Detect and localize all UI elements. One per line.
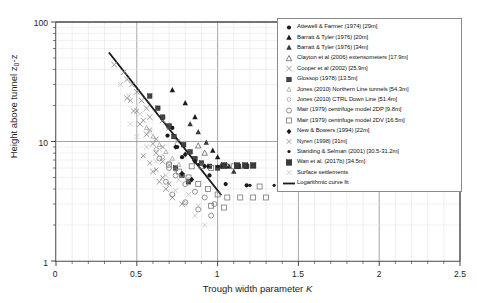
legend-swatch [281, 168, 297, 177]
data-point [154, 137, 159, 142]
legend-item[interactable]: Glossop (1978) [13.5m] [281, 74, 459, 84]
legend-item[interactable]: New & Bowers (1994) [22m] [281, 126, 459, 136]
data-point [242, 163, 248, 169]
data-point [167, 162, 172, 167]
data-point [131, 108, 137, 114]
data-point [250, 163, 256, 169]
legend-item-fit[interactable]: Logarithmic curve fit [281, 178, 459, 188]
data-point [160, 145, 165, 150]
legend-label: Mair (1979) centrifuge model 2DV [16.5m] [297, 118, 405, 124]
data-point [210, 148, 215, 153]
data-point [204, 140, 209, 145]
data-point [163, 186, 169, 192]
data-point [192, 114, 197, 119]
legend-swatch [281, 147, 297, 156]
data-point [147, 114, 153, 120]
data-point [144, 131, 150, 137]
x-axis-title: Trough width parameter K [55, 283, 460, 294]
data-point [202, 150, 207, 155]
data-point [154, 147, 158, 151]
legend-item[interactable]: Jones (2010) CTRL Down Line [51.4m] [281, 95, 459, 105]
x-tick-label: 2.5 [440, 269, 478, 279]
data-point [163, 179, 168, 184]
data-point [196, 182, 201, 187]
legend-marker-open-triangle [283, 54, 295, 63]
legend-item[interactable]: Jones (2010) Northern Line tunnels [54.3… [281, 84, 459, 94]
data-point [188, 150, 193, 155]
data-point [147, 94, 152, 99]
legend-item[interactable]: Mair (1979) centrifuge model 2DP [9.8m] [281, 105, 459, 115]
data-point [111, 62, 117, 68]
data-point [286, 159, 292, 165]
legend-item[interactable]: Nyren (1998) [31m] [281, 136, 459, 146]
legend-marker-open-circle [283, 106, 295, 115]
data-point [192, 189, 197, 194]
data-point [186, 192, 191, 197]
series-14 [118, 82, 207, 228]
legend-marker-filled-dot [283, 147, 295, 156]
legend-marker-filled-square [283, 75, 295, 84]
data-point [251, 195, 256, 200]
data-point [286, 35, 291, 40]
data-point [197, 163, 200, 166]
data-point [202, 222, 207, 227]
data-point [137, 111, 142, 116]
legend-item[interactable]: Barratt & Tyler (1976) [34m] [281, 43, 459, 53]
data-point [225, 195, 230, 200]
data-point [196, 129, 201, 134]
series-13 [221, 163, 256, 169]
data-point [144, 105, 150, 111]
data-point [216, 165, 219, 168]
legend-marker-filled-diamond [283, 127, 295, 136]
data-point [287, 77, 292, 82]
legend-item[interactable]: Cooper et al (2002) [25.9m] [281, 64, 459, 74]
legend-swatch [281, 33, 297, 42]
data-point [165, 134, 169, 138]
legend-item[interactable]: Wan et al. (2017b) [34.5m] [281, 157, 459, 167]
data-point [231, 169, 236, 174]
legend-item[interactable]: Barratt & Tyler (1976) [20m] [281, 32, 459, 42]
data-point [273, 184, 276, 187]
data-point [157, 142, 161, 146]
data-point [209, 213, 214, 218]
data-point [163, 173, 168, 178]
data-point [202, 195, 207, 200]
legend-label: Nyren (1998) [31m] [297, 139, 347, 145]
legend-item[interactable]: Mair (1979) centrifuge model 2DV [16.5m] [281, 116, 459, 126]
data-point [287, 108, 292, 113]
legend-label: Glossop (1978) [13.5m] [297, 76, 357, 82]
legend-item[interactable]: Clayton et al (2006) extensometers [17.9… [281, 53, 459, 63]
data-point [180, 155, 184, 159]
legend-item[interactable]: Surface settlements [281, 167, 459, 177]
data-point [287, 150, 290, 153]
data-point [286, 55, 291, 60]
data-point [196, 143, 201, 148]
legend-label: Barratt & Tyler (1976) [20m] [297, 35, 368, 41]
data-point [118, 82, 123, 87]
legend-label: Cooper et al (2002) [25.9m] [297, 66, 368, 72]
data-point [212, 201, 217, 206]
legend-swatch [281, 179, 297, 188]
legend-label: Attewell & Farmer (1974) [29m] [297, 24, 377, 30]
legend-swatch [281, 95, 297, 104]
legend-label: Jones (2010) CTRL Down Line [51.4m] [297, 97, 397, 103]
data-point [174, 139, 180, 145]
data-point [234, 163, 240, 169]
legend-label: Barratt & Tyler (1976) [34m] [297, 45, 368, 51]
legend-marker-filled-triangle [283, 43, 295, 52]
data-point [154, 159, 159, 164]
data-point [286, 45, 291, 50]
data-point [124, 77, 130, 83]
data-point [128, 121, 133, 126]
legend-item[interactable]: Attewell & Farmer (1974) [29m] [281, 22, 459, 32]
legend-swatch [281, 158, 297, 167]
data-point [160, 159, 166, 165]
data-point [286, 170, 291, 175]
legend-swatch [281, 116, 297, 125]
data-point [141, 118, 146, 123]
x-tick-label: 1 [197, 269, 237, 279]
data-point [205, 187, 210, 192]
legend-swatch [281, 137, 297, 146]
legend-item[interactable]: Standing & Selman (2001) [30.5-31.2m] [281, 147, 459, 157]
data-point [160, 115, 165, 120]
